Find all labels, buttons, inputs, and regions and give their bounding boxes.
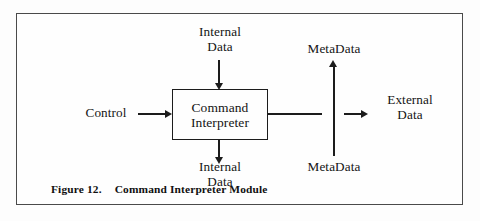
label-internal-data-top-line1: Internal (177, 24, 263, 39)
label-metadata-bottom: MetaData (291, 159, 377, 174)
label-external-data-line2: Data (367, 107, 453, 122)
process-box-label: Command Interpreter (173, 99, 267, 129)
arrowhead-right-icon-control-in (165, 110, 172, 118)
label-external-data: External Data (367, 92, 453, 122)
process-box-label-line1: Command (173, 99, 267, 114)
process-box-command-interpreter: Command Interpreter (172, 89, 268, 140)
flow-line-control-in (138, 113, 166, 115)
label-control-text: Control (75, 105, 137, 120)
label-metadata-top: MetaData (291, 41, 377, 56)
figure-caption-title: Command Interpreter Module (115, 183, 268, 195)
label-internal-data-top: Internal Data (177, 24, 263, 54)
label-control: Control (75, 105, 137, 120)
arrowhead-up-icon-metadata (329, 60, 337, 67)
figure-root: Internal Data MetaData Control External … (0, 0, 480, 221)
arrowhead-right-icon-external-data (361, 110, 368, 118)
figure-frame: Internal Data MetaData Control External … (16, 13, 463, 205)
arrowhead-down-icon-internal-data-out (215, 157, 223, 164)
flow-line-internal-data-out (218, 140, 220, 158)
flow-line-external-data-arrow (344, 113, 362, 115)
label-metadata-bottom-text: MetaData (291, 159, 377, 174)
flow-line-metadata-up (333, 66, 335, 156)
figure-caption-number: Figure 12. (51, 183, 102, 195)
label-metadata-top-text: MetaData (291, 41, 377, 56)
label-external-data-line1: External (367, 92, 453, 107)
flow-line-external-data-out (268, 113, 322, 115)
process-box-label-line2: Interpreter (173, 115, 267, 130)
flow-line-internal-data-in (218, 60, 220, 84)
label-internal-data-top-line2: Data (177, 39, 263, 54)
figure-caption: Figure 12.Command Interpreter Module (51, 183, 267, 195)
